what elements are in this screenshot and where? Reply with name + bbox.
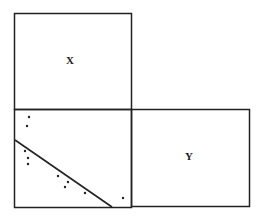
regression-line [15,140,112,207]
scatter-points [24,116,124,199]
scatter-point [27,163,29,165]
regression-line-group [15,140,112,207]
scatter-point [27,157,29,159]
scatter-point [122,197,124,199]
scatter-point [57,175,59,177]
box-group [15,14,250,208]
diagram-canvas [0,0,264,218]
scatter-box [15,110,132,208]
scatter-point [26,125,28,127]
scatter-point [64,186,66,188]
scatter-point [84,192,86,194]
scatter-point [28,116,30,118]
x-box-label: X [66,55,74,66]
scatter-point [24,150,26,152]
y-box-label: Y [185,151,193,162]
scatter-point [67,181,69,183]
